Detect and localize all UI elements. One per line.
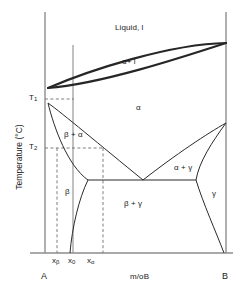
x-beta-tick-label: xβ bbox=[52, 257, 60, 265]
region-label-gamma: γ bbox=[212, 190, 216, 198]
phase-diagram-figure: Temperature (°C) T1 T2 xβ x0 xα A B m/oB… bbox=[0, 0, 240, 289]
t2-tick-label: T2 bbox=[29, 143, 37, 151]
liquidus-curve bbox=[48, 43, 226, 88]
region-label-beta-plus-gamma: β + γ bbox=[124, 200, 142, 208]
x-axis-label: m/oB bbox=[130, 273, 149, 281]
solidus-curve bbox=[48, 43, 226, 88]
region-label-liquid: Liquid, l bbox=[115, 24, 143, 32]
beta-solvus-upper-curve bbox=[48, 103, 88, 180]
alpha-solvus-left-curve bbox=[48, 103, 143, 180]
t1-tick-label: T1 bbox=[29, 94, 37, 102]
region-label-alpha: α bbox=[136, 104, 141, 112]
y-axis-label: Temperature (°C) bbox=[14, 92, 24, 222]
endmember-b-label: B bbox=[222, 272, 228, 281]
region-label-beta-plus-alpha: β + α bbox=[64, 131, 83, 139]
region-label-alpha-plus-gamma: α + γ bbox=[174, 164, 192, 172]
endmember-a-label: A bbox=[41, 272, 47, 281]
region-label-alpha-plus-liquid: α+ l bbox=[122, 58, 136, 66]
x-alpha-tick-label: xα bbox=[87, 257, 95, 265]
gamma-solvus-lower-curve bbox=[196, 180, 224, 253]
region-label-beta: β bbox=[65, 188, 70, 196]
x0-tick-label: x0 bbox=[68, 257, 76, 265]
